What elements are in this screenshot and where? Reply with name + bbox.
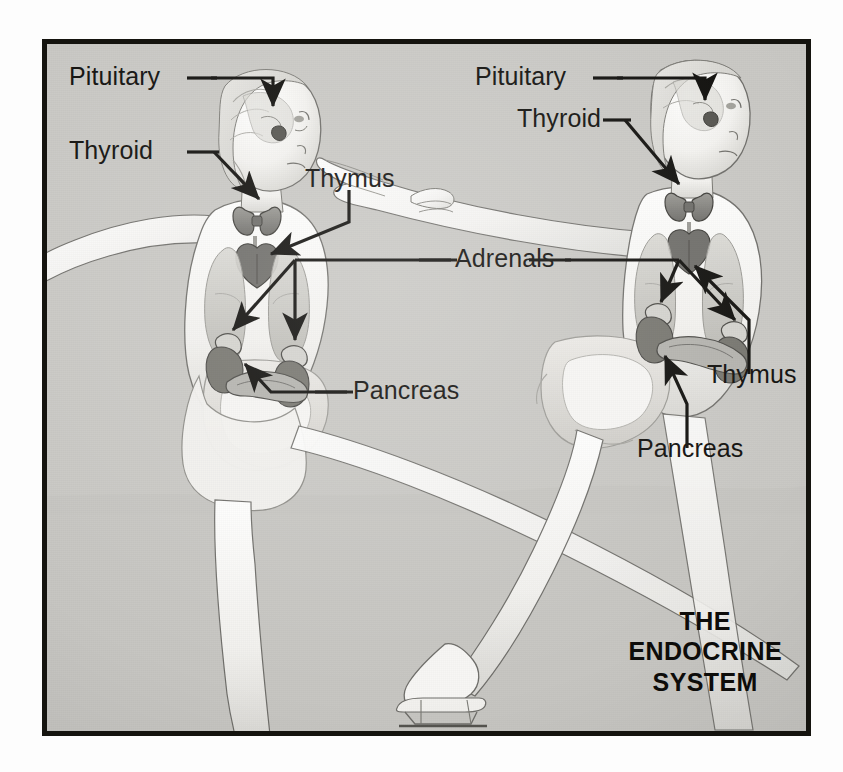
label-thymus-left: Thymus: [305, 166, 395, 191]
pituitary-gland-left: [272, 126, 287, 141]
label-thyroid-left: Thyroid: [69, 138, 153, 163]
plate-title-line-2: ENDOCRINE: [628, 636, 782, 667]
label-adrenals: Adrenals: [455, 246, 554, 271]
plate-title-line-3: SYSTEM: [628, 667, 782, 698]
pituitary-gland-right: [704, 112, 719, 127]
plate-title-line-1: THE: [628, 606, 782, 637]
label-thymus-right: Thymus: [707, 362, 797, 387]
illustration-page: Pituitary Thyroid Thymus Adrenals Pancre…: [0, 0, 843, 772]
label-thyroid-right: Thyroid: [517, 106, 601, 131]
illustration-frame: Pituitary Thyroid Thymus Adrenals Pancre…: [42, 39, 811, 736]
label-pituitary-left: Pituitary: [69, 64, 160, 89]
label-pituitary-right: Pituitary: [475, 64, 566, 89]
illustration-canvas: Pituitary Thyroid Thymus Adrenals Pancre…: [47, 44, 806, 731]
label-pancreas-right: Pancreas: [637, 436, 743, 461]
plate-title: THE ENDOCRINE SYSTEM: [628, 606, 782, 698]
label-pancreas-left: Pancreas: [353, 378, 459, 403]
